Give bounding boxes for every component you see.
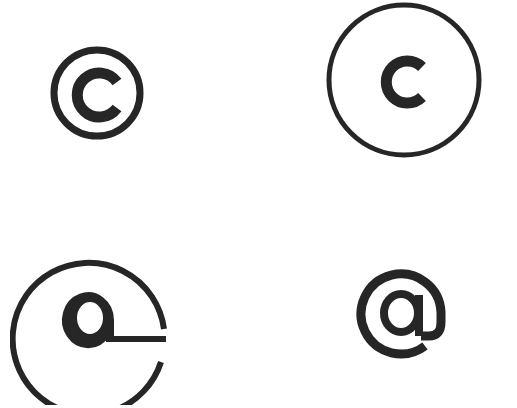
circled-c-icon: [322, 0, 487, 162]
circled-c-large: [322, 0, 487, 162]
copyright-icon: [45, 42, 153, 150]
at-sign-icon: [355, 266, 450, 361]
at-open-circle: [10, 230, 185, 405]
at-sign: [355, 266, 450, 361]
copyright-symbol-small: [45, 42, 153, 150]
at-open-circle-icon: [10, 230, 185, 405]
